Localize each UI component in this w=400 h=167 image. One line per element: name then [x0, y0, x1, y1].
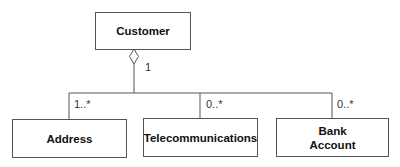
- class-bank-account-label-line1: Bank: [318, 124, 346, 138]
- class-bank-account-label-line2: Account: [310, 138, 356, 152]
- multiplicity-telecommunications: 0..*: [206, 98, 223, 110]
- class-telecommunications: Telecommunications: [143, 118, 258, 157]
- class-bank-account: Bank Account: [276, 118, 389, 157]
- multiplicity-address: 1..*: [74, 98, 91, 110]
- class-telecommunications-label: Telecommunications: [144, 131, 258, 145]
- class-customer-label: Customer: [116, 24, 170, 38]
- multiplicity-bank-account: 0..*: [337, 98, 354, 110]
- class-address-label: Address: [46, 132, 92, 146]
- multiplicity-customer: 1: [145, 61, 151, 73]
- class-customer: Customer: [95, 12, 191, 50]
- aggregation-diamond-icon: [130, 49, 139, 64]
- class-address: Address: [12, 119, 127, 158]
